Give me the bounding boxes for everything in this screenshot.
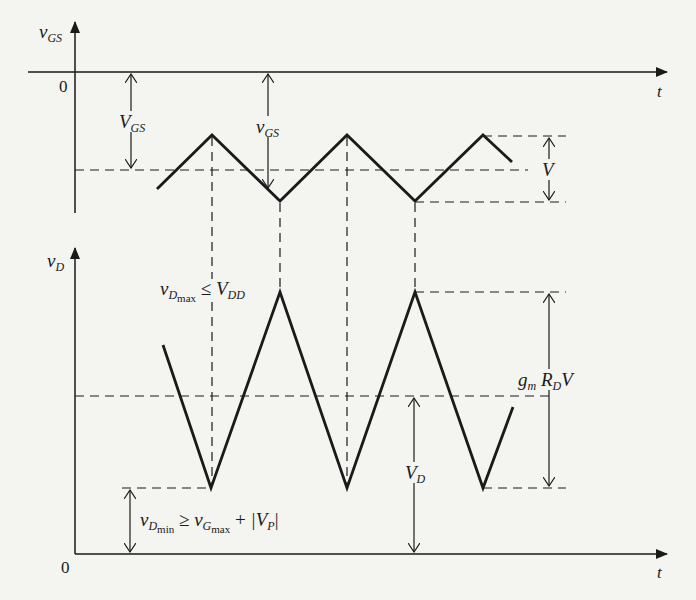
label-subsub: min xyxy=(157,523,174,535)
bottom-y-axis-label: vD xyxy=(47,251,64,270)
top-y-axis-label: vGS xyxy=(39,22,62,41)
label-sub: D xyxy=(55,260,64,274)
label-sub: GS xyxy=(47,31,62,45)
label-sub: GS xyxy=(264,126,279,140)
label-sub: D xyxy=(148,519,157,533)
plus-symbol: + xyxy=(235,509,246,530)
top-t-label: t xyxy=(657,83,662,100)
rhs-main: v xyxy=(194,509,202,530)
gm-main: g xyxy=(518,369,528,390)
label-subsub: max xyxy=(177,292,196,304)
bottom-origin-label: 0 xyxy=(61,559,70,576)
label-sub: D xyxy=(168,288,177,302)
vd-dc-label: VD xyxy=(404,462,426,483)
vdmin-constraint-label: vDmin ≥ vGmax + |VP| xyxy=(140,510,278,529)
time-alignment-lines xyxy=(212,137,415,486)
vgs-instant-label: vGS xyxy=(255,116,280,137)
label-main: V xyxy=(119,111,131,132)
bottom-t-label: t xyxy=(657,564,662,581)
gain-swing-label: gm RDV xyxy=(517,369,574,390)
amplitude-v-label: V xyxy=(541,159,555,180)
v-main: V xyxy=(561,369,573,390)
vgs-dc-label: VGS xyxy=(118,111,146,132)
gm-sub: m xyxy=(528,379,537,393)
label-sub: GS xyxy=(131,121,146,135)
rhs-subsub: max xyxy=(211,523,230,535)
rd-main: R xyxy=(541,369,553,390)
vgs-waveform xyxy=(157,135,512,201)
rhs-sub: G xyxy=(203,519,212,533)
relation-symbol: ≤ xyxy=(201,278,211,299)
top-origin-label: 0 xyxy=(59,78,68,95)
label-sub: D xyxy=(417,472,426,486)
waveform-diagram xyxy=(0,0,696,600)
vd-waveform xyxy=(163,292,513,488)
abs-sub: P xyxy=(267,519,274,533)
abs-close: | xyxy=(275,509,279,530)
abs-main: |V xyxy=(250,509,267,530)
label-main: V xyxy=(405,462,417,483)
rhs-sub: DD xyxy=(228,288,245,302)
rd-sub: D xyxy=(553,379,562,393)
rhs-main: V xyxy=(216,278,228,299)
relation-symbol: ≥ xyxy=(179,509,189,530)
vdmax-constraint-label: vDmax ≤ VDD xyxy=(158,279,247,298)
